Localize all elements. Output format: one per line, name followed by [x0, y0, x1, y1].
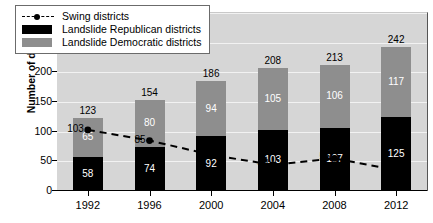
y-tick-label: 50 [24, 155, 52, 166]
swing-data-label: 85 [116, 135, 146, 145]
legend-item-republican: Landslide Republican districts [22, 23, 201, 36]
swing-marker [269, 161, 276, 168]
x-tick-label: 2008 [305, 199, 365, 211]
swing-data-label: 35 [362, 164, 392, 174]
dashed-line-marker-icon [22, 11, 56, 22]
y-tick-label: 150 [24, 96, 52, 107]
x-tick-mark [335, 191, 336, 196]
swing-marker [84, 126, 91, 133]
x-tick-mark [396, 191, 397, 196]
x-axis-line [52, 190, 427, 191]
swing-marker [146, 137, 153, 144]
x-tick-mark [211, 191, 212, 196]
swing-data-label: 44 [239, 159, 269, 169]
legend-label-swing: Swing districts [62, 11, 129, 22]
legend-label-republican: Landslide Republican districts [62, 24, 201, 35]
swing-marker [393, 167, 400, 174]
chart-container: Number of districts 050100150200250 5865… [0, 0, 433, 223]
x-tick-label: 2004 [243, 199, 303, 211]
x-tick-label: 1996 [120, 199, 180, 211]
x-tick-label: 2000 [181, 199, 241, 211]
legend-label-democratic: Landslide Democratic districts [62, 37, 201, 48]
x-tick-label: 1992 [58, 199, 118, 211]
legend-item-democratic: Landslide Democratic districts [22, 36, 201, 49]
swing-data-label: 103 [54, 124, 84, 134]
swing-marker [208, 151, 215, 158]
x-tick-label: 2012 [366, 199, 426, 211]
gray-swatch-icon [22, 37, 56, 48]
x-tick-mark [273, 191, 274, 196]
legend: Swing districts Landslide Republican dis… [15, 5, 210, 54]
x-tick-mark [150, 191, 151, 196]
y-tick-label: 200 [24, 66, 52, 77]
x-tick-mark [88, 191, 89, 196]
black-swatch-icon [22, 24, 56, 35]
y-tick-label: 100 [24, 126, 52, 137]
y-tick-label: 0 [24, 185, 52, 196]
swing-data-label: 55 [301, 152, 331, 162]
swing-data-label: 61 [177, 149, 207, 159]
legend-item-swing: Swing districts [22, 10, 201, 23]
swing-marker [331, 155, 338, 162]
